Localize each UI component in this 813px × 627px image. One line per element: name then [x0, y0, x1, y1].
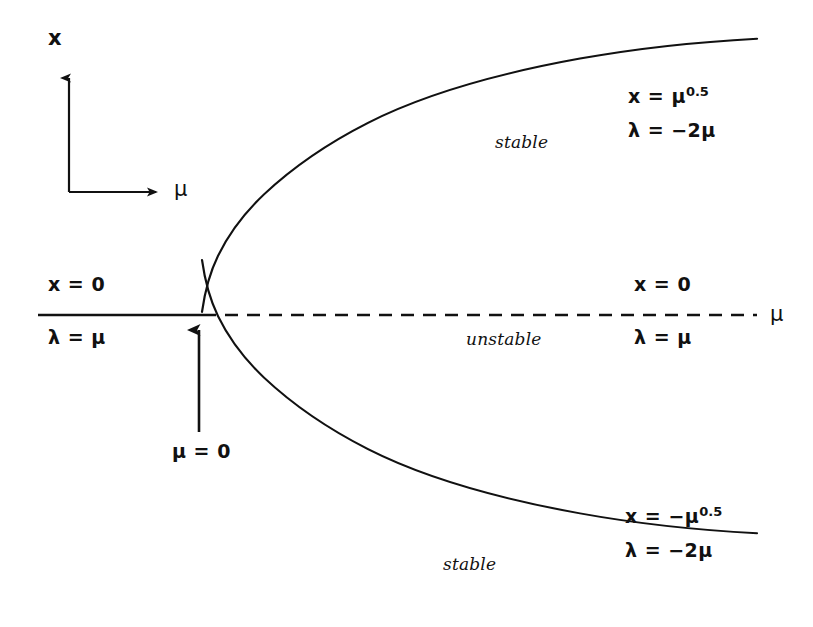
trivial-right-lambda-equation: λ = μ: [634, 328, 692, 347]
lower-branch-lambda-equation: λ = −2μ: [625, 541, 713, 560]
bifurcation-point-label: μ = 0: [172, 442, 231, 461]
upper-branch-lambda-equation: λ = −2μ: [628, 121, 716, 140]
upper-branch-x-equation: x = μ0.5: [628, 85, 709, 106]
mu-axis-right-label: μ: [770, 304, 783, 325]
trivial-left-x-equation: x = 0: [48, 275, 105, 294]
lower-branch-x-equation-exponent: 0.5: [699, 504, 722, 519]
lower-branch-x-equation-base: x = −μ: [625, 505, 699, 527]
upper-branch-x-equation-exponent: 0.5: [686, 84, 709, 99]
lower-branch-x-equation: x = −μ0.5: [625, 505, 722, 526]
upper-stable-branch-curve: [202, 39, 757, 312]
upper-branch-x-equation-base: x = μ: [628, 85, 686, 107]
upper-branch-stable-label: stable: [495, 134, 548, 151]
lower-stable-branch-curve: [202, 260, 757, 533]
unstable-branch-label: unstable: [466, 331, 542, 348]
legend-mu-axis-label: μ: [174, 179, 187, 200]
bifurcation-diagram-figure: x μ x = 0 λ = μ x = 0 λ = μ μ unstable s…: [0, 0, 813, 627]
lower-branch-stable-label: stable: [443, 556, 496, 573]
trivial-left-lambda-equation: λ = μ: [48, 328, 106, 347]
legend-x-axis-label: x: [48, 28, 62, 49]
trivial-right-x-equation: x = 0: [634, 275, 691, 294]
